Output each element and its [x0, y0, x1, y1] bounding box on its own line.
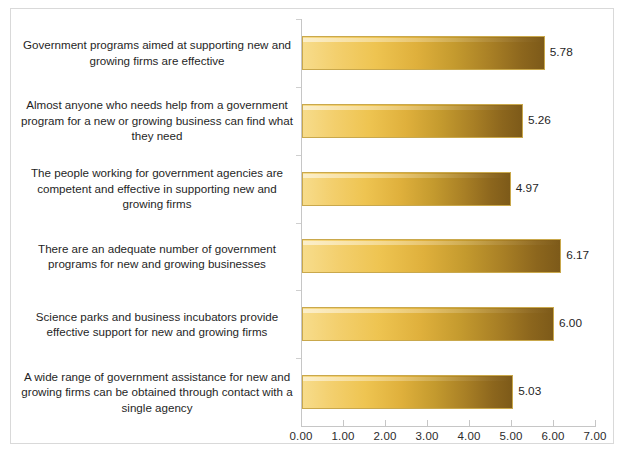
x-axis-tick-label: 3.00 — [404, 430, 450, 442]
category-axis-label: A wide range of government assistance fo… — [19, 369, 295, 416]
x-axis-tick-label: 5.00 — [488, 430, 534, 442]
category-axis-label: Government programs aimed at supporting … — [19, 37, 295, 68]
chart-category-row: 5.78Government programs aimed at support… — [11, 19, 615, 87]
bar-highlight — [303, 241, 560, 245]
chart-bar[interactable] — [302, 239, 561, 273]
category-axis-label: Science parks and business incubators pr… — [19, 309, 295, 340]
bar-highlight — [303, 106, 522, 110]
x-axis-tick-label: 1.00 — [320, 430, 366, 442]
chart-bar[interactable] — [302, 104, 523, 138]
bar-value-label: 5.03 — [518, 384, 541, 398]
category-axis-label: There are an adequate number of governme… — [19, 241, 295, 272]
chart-category-row: 5.26Almost anyone who needs help from a … — [11, 87, 615, 155]
bar-highlight — [303, 309, 553, 313]
chart-bar[interactable] — [302, 307, 554, 341]
chart-category-row: 4.97The people working for government ag… — [11, 155, 615, 223]
chart-category-row: 6.00Science parks and business incubator… — [11, 290, 615, 358]
x-axis-line — [301, 426, 596, 427]
bar-value-label: 6.00 — [559, 316, 582, 330]
x-axis-tick-label: 6.00 — [530, 430, 576, 442]
bar-value-label: 5.26 — [528, 113, 551, 127]
chart-bar[interactable] — [302, 36, 545, 70]
bar-highlight — [303, 38, 544, 42]
x-axis-tick-label: 0.00 — [278, 430, 324, 442]
chart-bar[interactable] — [302, 375, 513, 409]
x-axis-tick-label: 4.00 — [446, 430, 492, 442]
bar-highlight — [303, 174, 510, 178]
bar-highlight — [303, 377, 512, 381]
bar-value-label: 5.78 — [550, 45, 573, 59]
category-axis-label: The people working for government agenci… — [19, 165, 295, 212]
chart-bar[interactable] — [302, 172, 511, 206]
bar-value-label: 4.97 — [516, 181, 539, 195]
x-axis-tick-label: 7.00 — [572, 430, 618, 442]
chart-frame: 0.001.002.003.004.005.006.007.00 5.78Gov… — [10, 8, 614, 444]
x-axis-tick-label: 2.00 — [362, 430, 408, 442]
category-axis-label: Almost anyone who needs help from a gove… — [19, 97, 295, 144]
plot-area: 0.001.002.003.004.005.006.007.00 5.78Gov… — [11, 9, 613, 443]
chart-category-row: 6.17There are an adequate number of gove… — [11, 223, 615, 291]
chart-category-row: 5.03A wide range of government assistanc… — [11, 358, 615, 426]
bar-value-label: 6.17 — [566, 248, 589, 262]
